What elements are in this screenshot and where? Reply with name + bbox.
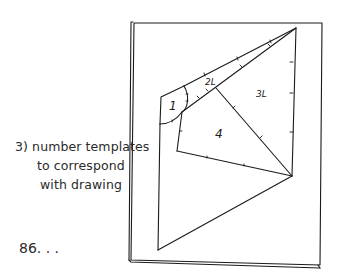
piece2-label: 2L [205, 77, 216, 87]
caption-line-3: with drawing [40, 176, 122, 194]
caption-line-2: to correspond [37, 157, 125, 175]
page-number: 86. . . [19, 240, 59, 256]
piece3-label: 3L [256, 89, 267, 99]
diagonal-line [182, 28, 296, 112]
caption-line-1: 3) number templates [15, 138, 149, 156]
inner-left-line [177, 112, 182, 151]
inner-diagonal-line [216, 88, 292, 176]
inner-bottom-line [177, 151, 292, 176]
tick-marks [172, 40, 293, 166]
piece1-label: 1 [169, 99, 177, 113]
piece4-label: 4 [215, 127, 223, 141]
